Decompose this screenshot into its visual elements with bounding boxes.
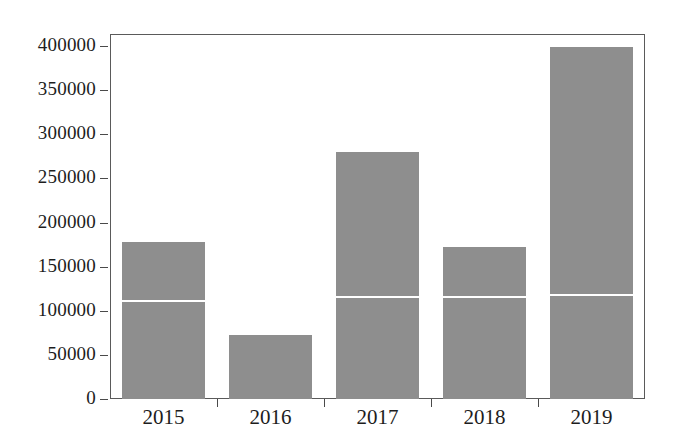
- y-axis-tick-mark: [100, 90, 108, 91]
- x-axis-label-2017: 2017: [357, 404, 399, 430]
- y-axis-tick-mark: [100, 311, 108, 312]
- bar-2016[interactable]: [229, 335, 313, 399]
- y-axis-tick-label: 400000: [38, 35, 96, 54]
- y-axis-tick-label: 300000: [38, 123, 96, 142]
- y-axis-tick-label: 50000: [48, 344, 97, 363]
- y-axis-tick-mark: [100, 46, 108, 47]
- bar-2019[interactable]: [550, 47, 634, 399]
- x-axis: 2015 2016 2017 2018 2019: [110, 404, 645, 438]
- y-axis-tick-label: 250000: [38, 167, 96, 186]
- x-axis-label-2016: 2016: [250, 404, 292, 430]
- y-axis-tick-label: 0: [86, 388, 96, 407]
- y-axis-tick-mark: [100, 267, 108, 268]
- y-axis-tick-mark: [100, 399, 108, 400]
- y-axis-tick-mark: [100, 134, 108, 135]
- bar-segment-divider: [336, 296, 420, 298]
- bar-segment-divider: [122, 300, 206, 302]
- y-axis-tick-label: 350000: [38, 79, 96, 98]
- bar-2015[interactable]: [122, 242, 206, 399]
- bar-segment-divider: [443, 296, 527, 298]
- x-axis-label-2019: 2019: [571, 404, 613, 430]
- x-axis-label-2015: 2015: [143, 404, 185, 430]
- bar-segment-divider: [550, 294, 634, 296]
- bars-layer: [110, 34, 645, 399]
- bar-2018[interactable]: [443, 247, 527, 399]
- y-axis: 0 50000 100000 150000 200000 250000 3000…: [0, 0, 110, 448]
- y-axis-tick-mark: [100, 355, 108, 356]
- y-axis-tick-mark: [100, 223, 108, 224]
- y-axis-tick-label: 200000: [38, 212, 96, 231]
- y-axis-tick-label: 150000: [38, 256, 96, 275]
- bar-2017[interactable]: [336, 152, 420, 399]
- y-axis-tick-mark: [100, 178, 108, 179]
- x-axis-label-2018: 2018: [464, 404, 506, 430]
- bar-chart: 0 50000 100000 150000 200000 250000 3000…: [0, 0, 681, 448]
- y-axis-tick-label: 100000: [38, 300, 96, 319]
